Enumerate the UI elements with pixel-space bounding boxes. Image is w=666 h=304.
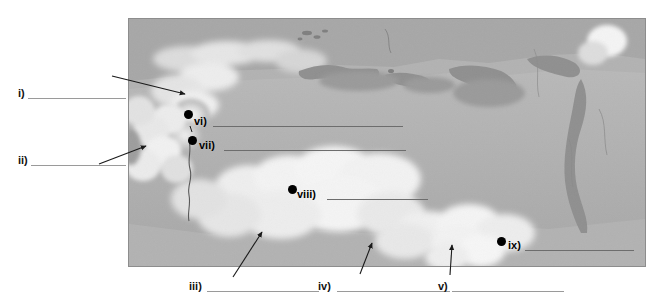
point-marker-ix [497, 237, 506, 246]
point-marker-vii [188, 136, 197, 145]
point-marker-viii [288, 185, 297, 194]
label-ii: ii) [18, 155, 28, 166]
answer-rule-ix[interactable] [525, 250, 634, 251]
answer-rule-iii[interactable] [207, 291, 319, 292]
answer-rule-v[interactable] [452, 291, 564, 292]
label-iii: iii) [189, 281, 202, 292]
label-v: v) [438, 281, 448, 292]
label-ix: ix) [508, 240, 521, 251]
label-viii: viii) [297, 189, 316, 200]
label-vii: vii) [199, 140, 215, 151]
answer-rule-i[interactable] [28, 98, 126, 99]
point-marker-vi [184, 110, 193, 119]
answer-rule-vii[interactable] [224, 150, 406, 151]
answer-rule-viii[interactable] [327, 199, 428, 200]
answer-rule-ii[interactable] [31, 165, 126, 166]
label-vi: vi) [194, 116, 207, 127]
answer-rule-iv[interactable] [337, 291, 450, 292]
label-i: i) [18, 88, 25, 99]
answer-rule-vi[interactable] [213, 126, 403, 127]
label-iv: iv) [318, 281, 331, 292]
worksheet-page: i) ii) iii) iv) v) vi) vii) viii) ix) [0, 0, 666, 304]
